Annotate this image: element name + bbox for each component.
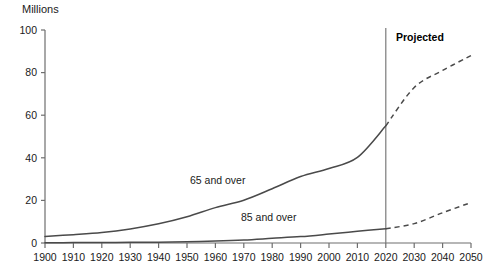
y-axis: 020406080100	[19, 24, 45, 249]
projected-annotation-label: Projected	[396, 31, 444, 43]
svg-text:60: 60	[25, 109, 37, 121]
svg-text:100: 100	[19, 24, 37, 36]
svg-text:2000: 2000	[317, 251, 341, 263]
svg-text:1900: 1900	[33, 251, 57, 263]
svg-text:40: 40	[25, 152, 37, 164]
population-projection-chart: Millions 020406080100 190019101920193019…	[0, 0, 483, 270]
svg-text:2050: 2050	[459, 251, 483, 263]
svg-text:1930: 1930	[119, 251, 143, 263]
svg-text:2040: 2040	[431, 251, 455, 263]
svg-text:1950: 1950	[175, 251, 199, 263]
svg-text:1960: 1960	[204, 251, 228, 263]
svg-text:1940: 1940	[147, 251, 171, 263]
series-line-65-and-over	[45, 56, 471, 237]
svg-text:1910: 1910	[62, 251, 86, 263]
series-label-65-and-over: 65 and over	[190, 174, 245, 186]
svg-text:2020: 2020	[374, 251, 398, 263]
x-axis: 1900191019201930194019501960197019801990…	[33, 243, 483, 263]
series-label-85-and-over: 85 and over	[241, 211, 296, 223]
svg-text:1980: 1980	[261, 251, 285, 263]
svg-text:1990: 1990	[289, 251, 313, 263]
svg-text:80: 80	[25, 66, 37, 78]
svg-text:1970: 1970	[232, 251, 256, 263]
svg-text:0: 0	[31, 237, 37, 249]
svg-text:20: 20	[25, 194, 37, 206]
svg-text:1920: 1920	[90, 251, 114, 263]
svg-text:2010: 2010	[346, 251, 370, 263]
svg-text:2030: 2030	[403, 251, 427, 263]
